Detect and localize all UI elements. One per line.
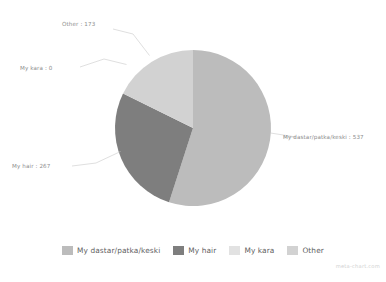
slice-label-my-kara: My kara : 0 (20, 65, 53, 72)
leader-line-my-hair (72, 152, 121, 167)
legend-swatch-icon-my-dastar-patka-keski (62, 246, 73, 255)
legend-label-my-hair: My hair (188, 246, 216, 255)
pie-slices (115, 50, 271, 206)
legend-swatch-icon-my-kara (229, 246, 240, 255)
pie-chart-canvas: Other : 173 My kara : 0 My hair : 267 My… (0, 0, 386, 282)
legend-swatch-icon-other (287, 246, 298, 255)
slice-label-my-hair: My hair : 267 (12, 163, 51, 170)
leader-line-my-kara (80, 59, 127, 67)
legend-item-other[interactable]: Other (287, 246, 324, 255)
legend-label-my-kara: My kara (244, 246, 274, 255)
legend-swatch-icon-my-hair (173, 246, 184, 255)
legend-item-my-kara[interactable]: My kara (229, 246, 274, 255)
legend-label-other: Other (302, 246, 324, 255)
chart-legend: My dastar/patka/keski My hair My kara Ot… (0, 246, 386, 255)
legend-label-my-dastar-patka-keski: My dastar/patka/keski (77, 246, 160, 255)
pie-chart-figure: Other : 173 My kara : 0 My hair : 267 My… (0, 0, 386, 282)
slice-label-other: Other : 173 (62, 21, 96, 27)
leader-line-other (113, 29, 150, 56)
watermark: meta-chart.com (336, 263, 380, 269)
slice-label-my-dastar: My dastar/patka/keski : 537 (283, 134, 364, 141)
legend-item-my-dastar-patka-keski[interactable]: My dastar/patka/keski (62, 246, 160, 255)
legend-item-my-hair[interactable]: My hair (173, 246, 216, 255)
